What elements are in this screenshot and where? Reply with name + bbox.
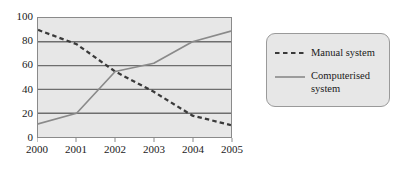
dashed-line-swatch-icon (275, 47, 305, 59)
x-axis-tick-label: 2003 (134, 143, 174, 155)
chart-plot-region: 100 80 60 40 20 0 2000 2001 2002 2003 20… (0, 0, 245, 171)
x-axis-tick-label: 2002 (95, 143, 135, 155)
gridlines (38, 42, 231, 113)
series-line (38, 30, 231, 125)
x-axis-tick-labels: 2000 2001 2002 2003 2004 2005 (37, 143, 233, 159)
series-line (38, 31, 231, 124)
y-axis-tick-label: 80 (3, 35, 33, 46)
plot-frame (37, 17, 232, 138)
x-axis-tick-label: 2000 (17, 143, 57, 155)
chart-legend: Manual system Computerised system (266, 33, 390, 107)
y-axis-tick-label: 100 (3, 11, 33, 22)
plot-svg (38, 18, 231, 137)
series-lines (38, 30, 231, 125)
line-chart-figure: 100 80 60 40 20 0 2000 2001 2002 2003 20… (0, 0, 398, 171)
legend-label-computerised-system: Computerised system (311, 70, 387, 95)
legend-item-computerised-system: Computerised system (275, 70, 387, 95)
y-axis-tick-label: 60 (3, 59, 33, 70)
x-axis-tick-label: 2001 (56, 143, 96, 155)
solid-line-swatch-icon (275, 70, 305, 82)
legend-item-manual-system: Manual system (275, 47, 375, 60)
y-axis-tick-label: 40 (3, 84, 33, 95)
x-axis-tick-label: 2004 (173, 143, 213, 155)
legend-label-manual-system: Manual system (311, 47, 375, 60)
y-axis-tick-label: 0 (3, 132, 33, 143)
x-axis-tick-label: 2005 (212, 143, 252, 155)
y-axis-tick-label: 20 (3, 108, 33, 119)
